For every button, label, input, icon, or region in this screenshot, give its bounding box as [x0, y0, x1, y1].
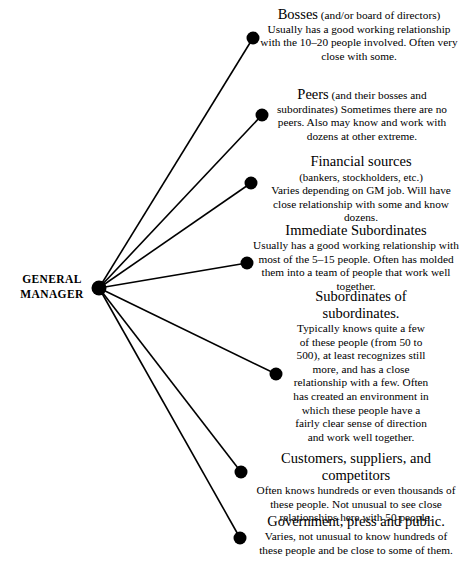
peers-text: Peers (and their bosses and subordinates… — [266, 88, 458, 143]
bosses-heading: Bosses — [278, 6, 318, 22]
gm-label-line2: MANAGER — [20, 288, 84, 300]
node-text-financial-sources: Financial sources (bankers, stockholders… — [262, 153, 460, 225]
spoke-line-0 — [99, 38, 253, 288]
peers-heading: Peers — [297, 86, 328, 102]
financial-heading: Financial sources — [262, 153, 460, 170]
immediate-body: Usually has a good working relationship … — [252, 239, 460, 293]
endpoint-dot-0 — [247, 32, 260, 45]
node-text-government-press-public: Government, press and public. Varies, no… — [252, 513, 460, 557]
spoke-line-2 — [99, 183, 251, 288]
bosses-heading-rest: (and/or board of — [318, 9, 394, 21]
spoke-line-1 — [99, 115, 262, 288]
financial-body: Varies depending on GM job. Will have cl… — [262, 184, 460, 225]
endpoint-dot-6 — [234, 532, 247, 545]
gm-label-line1: GENERAL — [22, 273, 82, 285]
government-body: Varies, not unusual to know hundreds of … — [252, 530, 460, 557]
node-text-bosses: Bosses (and/or board of directors) Usual… — [259, 8, 459, 63]
spoke-lines — [99, 38, 276, 538]
peers-heading-rest: (and their bosses and — [329, 89, 427, 101]
spoke-line-4 — [99, 288, 276, 374]
immediate-heading: Immediate Subordinates — [252, 222, 460, 239]
financial-subheading: (bankers, stockholders, etc.) — [262, 170, 460, 184]
endpoint-dot-4 — [270, 368, 283, 381]
spoke-line-5 — [99, 288, 241, 472]
subsub-heading: Subordinates of subordinates. — [291, 288, 431, 322]
peers-body: subordinates) Sometimes there are no pee… — [277, 103, 447, 142]
node-text-peers: Peers (and their bosses and subordinates… — [266, 88, 458, 143]
node-text-immediate-subordinates: Immediate Subordinates Usually has a goo… — [252, 222, 460, 293]
spoke-line-6 — [99, 288, 240, 538]
bosses-text: Bosses (and/or board of directors) Usual… — [259, 8, 459, 63]
endpoint-dot-5 — [235, 466, 248, 479]
subsub-body: Typically knows quite a few of these peo… — [291, 322, 431, 444]
node-text-subordinates-of-subordinates: Subordinates of subordinates. Typically … — [291, 288, 431, 444]
hub-dot — [92, 281, 107, 296]
government-heading: Government, press and public. — [252, 513, 460, 530]
spoke-line-3 — [99, 263, 247, 288]
general-manager-label: GENERAL MANAGER — [14, 272, 90, 302]
customers-heading: Customers, suppliers, and competitors — [252, 450, 460, 484]
endpoint-dot-2 — [245, 177, 258, 190]
